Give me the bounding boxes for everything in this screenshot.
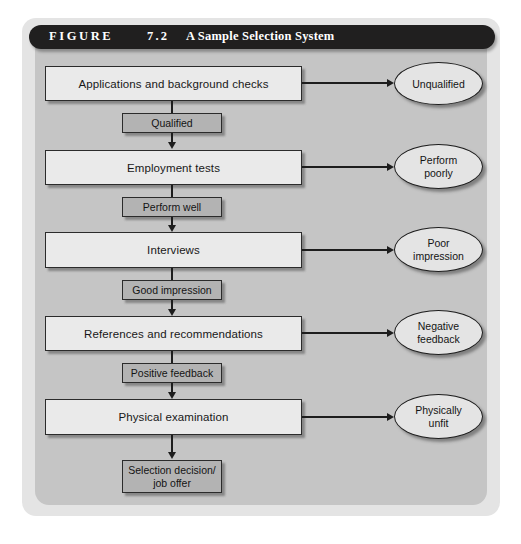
condition-label-good-impression: Good impression <box>123 284 221 296</box>
stage-label-applications: Applications and background checks <box>46 78 301 90</box>
stage-label-physical: Physical examination <box>46 411 301 423</box>
outcome-line1-poor-impression: Poor <box>427 237 449 249</box>
arrowhead-negative-feedback <box>387 329 394 337</box>
arrowhead-unqualified <box>387 79 394 87</box>
arrowhead-poor-impression <box>387 246 394 254</box>
connector-physical-to-selection-decision <box>171 435 173 453</box>
outcome-line1-negative-feedback: Negative <box>418 320 459 332</box>
connector-employment-to-perform-poorly <box>302 166 388 168</box>
figure-root: FIGURE 7.2 A Sample Selection System App… <box>0 0 521 544</box>
connector-physical-to-physically-unfit <box>302 416 388 418</box>
stage-label-interviews: Interviews <box>46 244 301 256</box>
terminal-line1: Selection decision/ <box>128 464 216 476</box>
figure-number: 7.2 <box>147 29 169 44</box>
outcome-label-unqualified: Unqualified <box>395 77 482 90</box>
arrowhead-selection-decision <box>168 452 176 459</box>
outcome-line2-poor-impression: impression <box>413 250 464 262</box>
stage-label-references: References and recommendations <box>46 328 301 340</box>
outcome-ellipse-negative-feedback[interactable]: Negative feedback <box>394 310 483 355</box>
connector-interviews-to-poor-impression <box>302 249 388 251</box>
condition-box-good-impression[interactable]: Good impression <box>122 280 222 300</box>
arrowhead-perform-poorly <box>387 163 394 171</box>
arrowhead-references <box>168 309 176 316</box>
condition-box-qualified[interactable]: Qualified <box>122 113 222 133</box>
terminal-line2: job offer <box>153 477 191 489</box>
condition-box-perform-well[interactable]: Perform well <box>122 197 222 217</box>
outcome-line2-physically-unfit: unfit <box>429 417 449 429</box>
arrowhead-physically-unfit <box>387 413 394 421</box>
outcome-line1-physically-unfit: Physically <box>415 404 462 416</box>
figure-title-bar: FIGURE 7.2 A Sample Selection System <box>29 25 495 49</box>
outcome-ellipse-perform-poorly[interactable]: Perform poorly <box>394 144 483 189</box>
terminal-box-selection-decision[interactable]: Selection decision/ job offer <box>122 460 222 493</box>
connector-interviews-to-good-impression <box>171 268 173 280</box>
stage-box-references[interactable]: References and recommendations <box>45 316 302 351</box>
stage-box-applications[interactable]: Applications and background checks <box>45 66 302 101</box>
arrowhead-interviews <box>168 225 176 232</box>
connector-references-to-negative-feedback <box>302 332 388 334</box>
condition-label-qualified: Qualified <box>123 117 221 129</box>
connector-employment-to-perform-well <box>171 185 173 197</box>
stage-box-employment[interactable]: Employment tests <box>45 150 302 185</box>
condition-label-perform-well: Perform well <box>123 201 221 213</box>
outcome-label-perform-poorly: Perform poorly <box>395 154 482 180</box>
outcome-ellipse-unqualified[interactable]: Unqualified <box>394 62 483 105</box>
condition-label-positive-feedback: Positive feedback <box>123 367 221 379</box>
outcome-line1-perform-poorly: Perform <box>420 154 457 166</box>
stage-box-physical[interactable]: Physical examination <box>45 399 302 435</box>
outcome-label-poor-impression: Poor impression <box>395 237 482 263</box>
connector-applications-to-unqualified <box>302 82 388 84</box>
figure-label: FIGURE <box>49 29 113 44</box>
terminal-label-selection-decision: Selection decision/ job offer <box>123 464 221 490</box>
connector-applications-to-qualified <box>171 101 173 113</box>
outcome-ellipse-physically-unfit[interactable]: Physically unfit <box>394 394 483 439</box>
connector-references-to-positive-feedback <box>171 351 173 363</box>
stage-label-employment: Employment tests <box>46 162 301 174</box>
arrowhead-physical <box>168 392 176 399</box>
arrowhead-employment <box>168 142 176 149</box>
outcome-label-negative-feedback: Negative feedback <box>395 320 482 346</box>
outcome-line2-perform-poorly: poorly <box>424 167 453 179</box>
outcome-ellipse-poor-impression[interactable]: Poor impression <box>394 227 483 272</box>
outcome-label-physically-unfit: Physically unfit <box>395 404 482 430</box>
outcome-line2-negative-feedback: feedback <box>417 333 460 345</box>
stage-box-interviews[interactable]: Interviews <box>45 232 302 268</box>
condition-box-positive-feedback[interactable]: Positive feedback <box>122 363 222 383</box>
figure-caption: A Sample Selection System <box>186 29 334 44</box>
